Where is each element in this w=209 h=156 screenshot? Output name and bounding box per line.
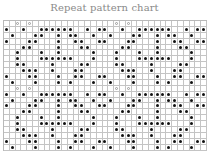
chart-title: Repeat pattern chart: [0, 2, 209, 13]
pattern-grid: [3, 20, 207, 151]
grid-cell: [201, 145, 207, 151]
